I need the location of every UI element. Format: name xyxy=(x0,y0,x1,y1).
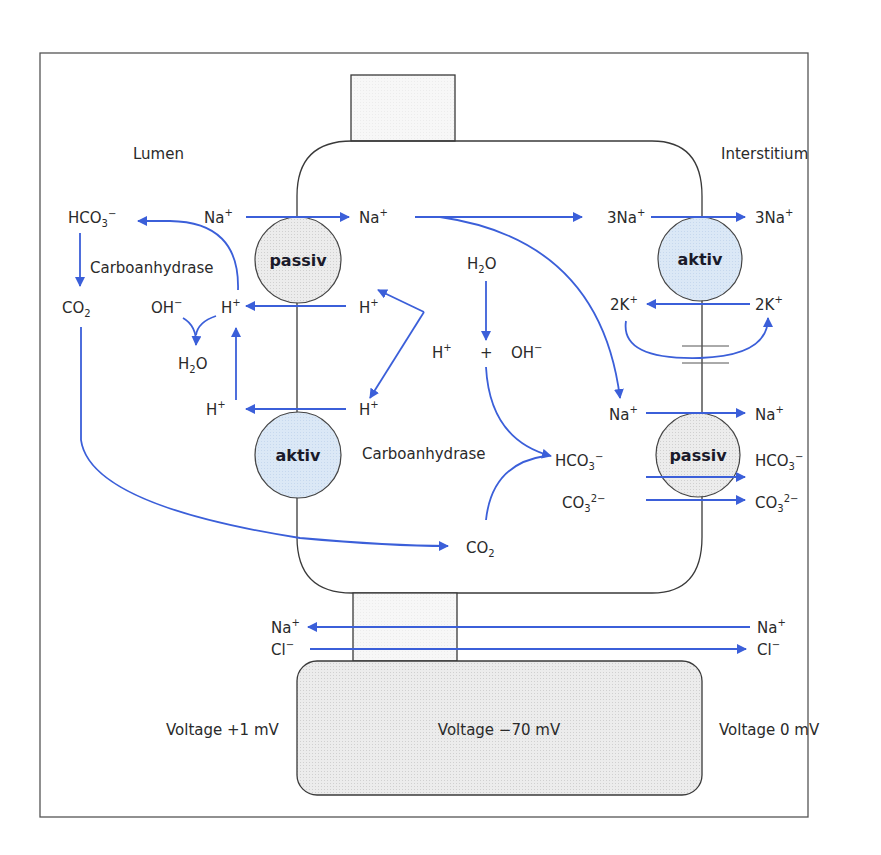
transporter-apical-passiv: passiv xyxy=(255,217,341,303)
transporter-label: aktiv xyxy=(276,446,322,465)
voltage-lumen: Voltage +1 mV xyxy=(166,721,280,739)
voltage-cell: Voltage −70 mV xyxy=(438,721,561,739)
transporter-basolateral-aktiv: aktiv xyxy=(658,217,742,301)
lumen-label: Lumen xyxy=(133,145,184,163)
voltage-interstitium: Voltage 0 mV xyxy=(719,721,820,739)
cell-oh: OH− xyxy=(511,342,542,362)
cell-h2o: H2O xyxy=(467,255,496,275)
cell-co3: CO32− xyxy=(562,493,605,514)
cell-na: Na+ xyxy=(359,207,388,227)
cell-3na: 3Na+ xyxy=(607,207,645,227)
cell-h-mid: H+ xyxy=(432,342,452,362)
cell-h-top: H+ xyxy=(359,297,379,317)
int-na: Na+ xyxy=(755,404,784,424)
cell-2k: 2K+ xyxy=(610,294,638,314)
lumen-carboanhydrase: Carboanhydrase xyxy=(90,259,214,277)
lumen-co2: CO2 xyxy=(62,299,91,319)
lumen-hco3: HCO3− xyxy=(68,208,116,229)
para-na-lumen: Na+ xyxy=(271,617,300,637)
lumen-oh: OH− xyxy=(151,297,182,317)
para-cl-int: Cl− xyxy=(757,639,780,659)
transporter-apical-aktiv: aktiv xyxy=(255,412,341,498)
lumen-na: Na+ xyxy=(204,207,233,227)
cell-plus: + xyxy=(480,344,493,362)
int-2k: 2K+ xyxy=(755,294,783,314)
int-3na: 3Na+ xyxy=(755,207,793,227)
int-co3: CO32− xyxy=(755,493,798,514)
para-cl-lumen: Cl− xyxy=(271,639,294,659)
para-na-int: Na+ xyxy=(757,617,786,637)
int-hco3: HCO3− xyxy=(755,451,803,472)
lumen-h2o: H2O xyxy=(178,355,207,375)
transporter-label: passiv xyxy=(669,446,727,465)
transporter-label: passiv xyxy=(269,251,327,270)
transporter-label: aktiv xyxy=(678,250,724,269)
renal-tubule-transport-diagram: passiv aktiv aktiv passiv Lumen Intersti… xyxy=(0,0,881,855)
tight-junction-top xyxy=(351,75,455,141)
lumen-h-top: H+ xyxy=(221,297,241,317)
transporter-basolateral-passiv: passiv xyxy=(656,413,740,497)
cell-hco3: HCO3− xyxy=(555,451,603,472)
cell-carboanhydrase: Carboanhydrase xyxy=(362,445,486,463)
cell-h-bottom: H+ xyxy=(359,399,379,419)
lumen-h-bottom: H+ xyxy=(206,399,226,419)
interstitium-label: Interstitium xyxy=(721,145,808,163)
cell-na-baso: Na+ xyxy=(609,404,638,424)
cell-co2: CO2 xyxy=(466,539,495,559)
